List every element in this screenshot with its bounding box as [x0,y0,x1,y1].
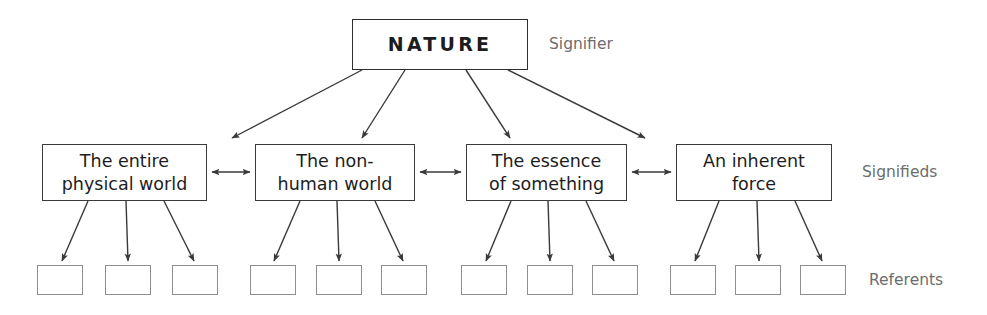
signified-node-label: The non- human world [274,150,397,195]
signified-node-4[interactable]: An inherent force [676,144,832,201]
referent-node-3[interactable] [172,265,218,295]
referent-node-6[interactable] [381,265,427,295]
row-label-signifieds: Signifieds [862,165,937,181]
referent-node-8[interactable] [527,265,573,295]
signifier-to-signified-arrows [232,70,645,138]
signifier-node-label: NATURE [388,34,492,55]
referent-node-7[interactable] [461,265,507,295]
semiotics-diagram: NATURE The entire physical world The non… [0,0,987,315]
referent-node-12[interactable] [800,265,846,295]
referent-node-10[interactable] [670,265,716,295]
signified-node-3[interactable]: The essence of something [466,144,627,201]
referent-node-2[interactable] [105,265,151,295]
signified-node-1[interactable]: The entire physical world [42,144,207,201]
signified-node-label: The essence of something [485,150,608,195]
signified-node-label: An inherent force [699,150,809,195]
referent-node-1[interactable] [37,265,83,295]
referent-node-4[interactable] [250,265,296,295]
signified-to-referent-arrows [62,201,822,261]
signified-node-label: The entire physical world [58,150,192,195]
signifier-node-nature[interactable]: NATURE [352,19,528,70]
row-label-referents: Referents [869,273,943,289]
referent-node-9[interactable] [592,265,638,295]
row-label-signifier: Signifier [549,37,613,53]
referent-node-5[interactable] [316,265,362,295]
referent-node-11[interactable] [735,265,781,295]
signified-node-2[interactable]: The non- human world [255,144,415,201]
